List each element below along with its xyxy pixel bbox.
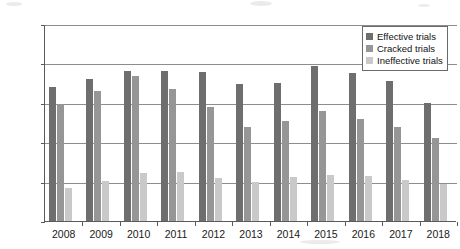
bar-2017-cracked-trials xyxy=(394,127,401,221)
y-axis-tick-mark xyxy=(41,222,45,223)
legend-swatch-icon xyxy=(366,33,373,40)
legend-swatch-icon xyxy=(366,45,373,52)
bar-group-2009 xyxy=(82,24,119,221)
bar-2015-cracked-trials xyxy=(319,111,326,221)
bar-2009-cracked-trials xyxy=(94,91,101,221)
bar-2016-effective-trials xyxy=(349,73,356,221)
bar-group-2011 xyxy=(157,24,194,221)
x-axis-tick-mark xyxy=(270,222,271,226)
bar-2015-effective-trials xyxy=(311,66,318,221)
bar-2012-ineffective-trials xyxy=(215,178,222,221)
legend-label: Cracked trials xyxy=(377,44,435,54)
bar-2017-ineffective-trials xyxy=(402,180,409,221)
bar-2015-ineffective-trials xyxy=(327,175,334,221)
bar-2010-effective-trials xyxy=(124,71,131,222)
x-axis-tick-mark xyxy=(195,222,196,226)
x-axis-tick-mark xyxy=(420,222,421,226)
bar-2010-ineffective-trials xyxy=(140,173,147,221)
bar-2016-cracked-trials xyxy=(357,119,364,221)
scan-artifact xyxy=(300,240,340,244)
bar-2009-ineffective-trials xyxy=(102,181,109,221)
bar-2018-ineffective-trials xyxy=(440,184,447,221)
bar-group-2010 xyxy=(120,24,157,221)
x-axis-tick-mark xyxy=(120,222,121,226)
x-axis-tick-mark xyxy=(345,222,346,226)
legend-label: Effective trials xyxy=(377,32,436,42)
bar-2014-cracked-trials xyxy=(282,121,289,221)
bar-2008-ineffective-trials xyxy=(65,188,72,221)
bar-2017-effective-trials xyxy=(386,81,393,221)
chart-legend: Effective trialsCracked trialsIneffectiv… xyxy=(362,26,448,71)
legend-item-cracked-trials: Cracked trials xyxy=(366,43,443,54)
x-axis-tick-mark xyxy=(382,222,383,226)
bar-2011-ineffective-trials xyxy=(177,172,184,221)
legend-item-ineffective-trials: Ineffective trials xyxy=(366,55,443,66)
bar-2008-effective-trials xyxy=(49,87,56,221)
x-axis-label-2018: 2018 xyxy=(408,229,460,240)
bar-2018-effective-trials xyxy=(424,103,431,221)
bar-2011-effective-trials xyxy=(161,71,168,222)
bar-chart: 0500010000150002000025000200820092010201… xyxy=(0,0,460,249)
legend-swatch-icon xyxy=(366,57,373,64)
bar-2014-ineffective-trials xyxy=(290,177,297,221)
bar-2013-effective-trials xyxy=(236,84,243,221)
bar-2012-effective-trials xyxy=(199,72,206,221)
bar-group-2008 xyxy=(45,24,82,221)
x-axis-tick-mark xyxy=(157,222,158,226)
scan-artifact xyxy=(418,4,430,7)
scan-artifact xyxy=(250,1,272,6)
legend-label: Ineffective trials xyxy=(377,56,443,66)
bar-2010-cracked-trials xyxy=(132,76,139,221)
bar-group-2012 xyxy=(195,24,232,221)
legend-item-effective-trials: Effective trials xyxy=(366,31,443,42)
bar-2016-ineffective-trials xyxy=(365,176,372,221)
bar-group-2013 xyxy=(232,24,269,221)
bar-2012-cracked-trials xyxy=(207,107,214,221)
bar-2011-cracked-trials xyxy=(169,89,176,221)
bar-2009-effective-trials xyxy=(86,79,93,221)
bar-group-2014 xyxy=(270,24,307,221)
bar-group-2015 xyxy=(307,24,344,221)
bar-2018-cracked-trials xyxy=(432,138,439,221)
bar-2013-cracked-trials xyxy=(244,127,251,221)
scan-artifact xyxy=(6,2,22,6)
bar-2013-ineffective-trials xyxy=(252,182,259,221)
x-axis-tick-mark xyxy=(82,222,83,226)
bar-2014-effective-trials xyxy=(274,83,281,221)
x-axis-tick-mark xyxy=(307,222,308,226)
x-axis-tick-mark xyxy=(232,222,233,226)
bar-2008-cracked-trials xyxy=(57,104,64,221)
x-axis-tick-mark xyxy=(457,222,458,226)
